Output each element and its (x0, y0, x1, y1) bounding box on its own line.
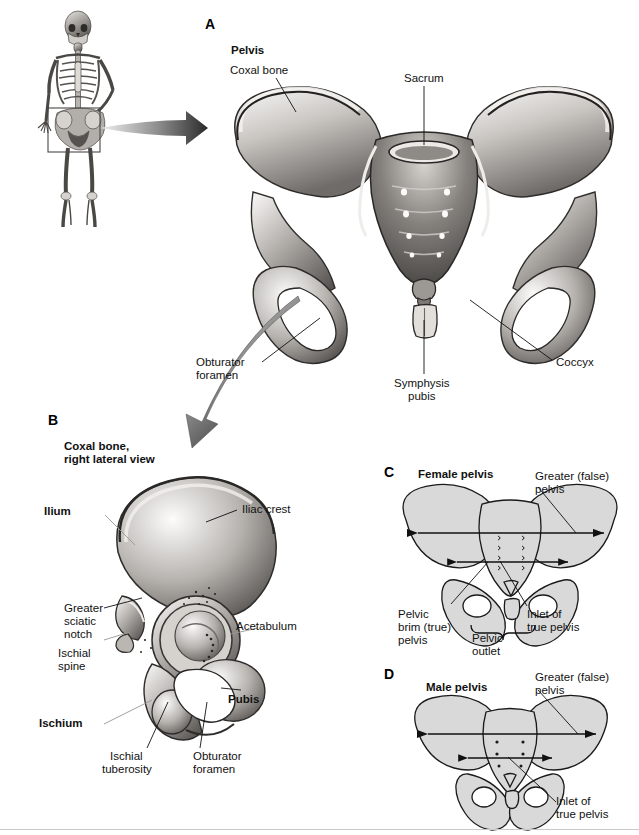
figure-artwork (0, 0, 639, 835)
panel-d-heading: Male pelvis (426, 681, 487, 694)
label-obturator-foramen-a-l2: foramen (196, 369, 238, 382)
orientation-arrow-icon (100, 111, 208, 145)
label-ischial-tuberosity-l2: tuberosity (102, 763, 152, 776)
label-ischial-spine-l1: Ischial (58, 647, 91, 660)
skeleton-pelvis (55, 108, 105, 150)
label-inlet-true-pelvis-d-l2: true pelvis (556, 808, 608, 821)
label-symphysis-pubis-l1: Symphysis (394, 377, 450, 390)
label-greater-false-pelvis-d-l2: pelvis (535, 684, 564, 697)
panel-b-artwork (104, 477, 276, 748)
label-symphysis-pubis-l2: pubis (408, 390, 436, 403)
label-obturator-foramen-b-l1: Obturator (193, 750, 242, 763)
label-obturator-foramen-a-l1: Obturator (196, 356, 245, 369)
panel-letter-d: D (384, 666, 394, 682)
panel-a-heading: Pelvis (231, 44, 264, 57)
label-iliac-crest: Iliac crest (242, 503, 291, 516)
label-inlet-true-pelvis-c-l1: Inlet of (527, 608, 562, 621)
label-sacrum: Sacrum (404, 72, 444, 85)
label-greater-sciatic-notch-l1: Greater (64, 602, 103, 615)
panel-b-heading-l1: Coxal bone, (64, 440, 129, 453)
label-greater-sciatic-notch-l2: sciatic (64, 615, 96, 628)
label-coccyx: Coccyx (556, 356, 594, 369)
panel-c-heading: Female pelvis (418, 468, 493, 481)
coccyx-artwork (412, 279, 435, 301)
label-pelvic-brim-l1: Pelvic (398, 608, 429, 621)
bottom-rule (0, 829, 639, 830)
orientation-skeleton (38, 11, 113, 227)
sacrum-artwork (370, 132, 477, 286)
panel-letter-a: A (205, 16, 215, 32)
label-ischial-spine-l2: spine (58, 660, 86, 673)
panel-letter-b: B (48, 412, 58, 428)
panel-b-heading-l2: right lateral view (64, 453, 155, 466)
label-ischium: Ischium (39, 717, 82, 730)
label-pelvic-brim-l2: brim (true) (398, 621, 451, 634)
label-greater-false-pelvis-c-l2: pelvis (535, 483, 564, 496)
panel-a-artwork (235, 78, 613, 374)
label-obturator-foramen-b-l2: foramen (193, 763, 235, 776)
label-greater-sciatic-notch-l3: notch (64, 628, 92, 641)
panel-letter-c: C (384, 464, 394, 480)
label-pelvic-outlet-l1: Pelvic (472, 632, 503, 645)
label-pubis: Pubis (228, 693, 259, 706)
label-pelvic-brim-l3: pelvis (398, 634, 427, 647)
label-greater-false-pelvis-c-l1: Greater (false) (535, 470, 609, 483)
label-greater-false-pelvis-d-l1: Greater (false) (535, 671, 609, 684)
label-ischial-tuberosity-l1: Ischial (110, 750, 143, 763)
label-coxal-bone: Coxal bone (230, 64, 288, 77)
label-inlet-true-pelvis-c-l2: true pelvis (527, 621, 579, 634)
label-pelvic-outlet-l2: outlet (472, 645, 500, 658)
anatomy-figure-plate: A Pelvis Coxal bone Sacrum Coccyx Obtura… (0, 0, 639, 835)
label-acetabulum: Acetabulum (236, 620, 297, 633)
label-ilium: Ilium (44, 505, 71, 518)
label-inlet-true-pelvis-d-l1: Inlet of (556, 795, 591, 808)
